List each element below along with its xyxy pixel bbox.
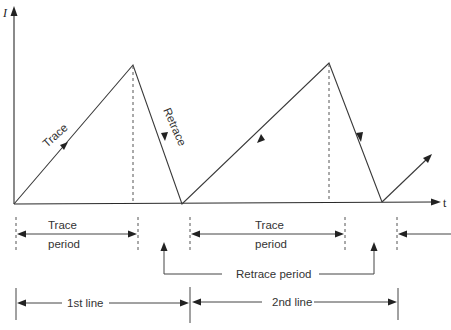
y-axis-label: I [2,6,8,20]
x-axis: t [14,196,447,210]
trace-period-3-partial [397,217,451,251]
trace-period-1-top: Trace [48,219,77,231]
line-1-span: 1st line [16,287,190,323]
trace-period-1-bottom: period [48,238,80,250]
line-2-span: 2nd line [192,288,398,320]
retrace-period-label: Retrace period [236,268,311,280]
trace-period-2-bottom: period [255,238,287,250]
sawtooth-waveform [14,63,432,204]
line-2-label: 2nd line [272,296,312,308]
retrace-label: Retrace [161,106,188,148]
y-axis: I [2,6,18,204]
x-axis-label: t [443,196,447,210]
trace-period-2-top: Trace [255,219,284,231]
sawtooth-scan-diagram: I t Trace Retrace Trace period Trac [0,0,451,330]
retrace-direction-arrow-icon [161,132,168,141]
trace-period-2: Trace period [190,217,345,251]
trace-period-1: Trace period [16,217,138,251]
trace2-direction-arrow-icon [257,134,265,143]
x-axis-arrow-icon [431,199,441,206]
line-1-label: 1st line [67,297,103,309]
y-axis-arrow-icon [11,6,18,16]
